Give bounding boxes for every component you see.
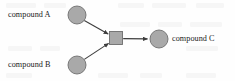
edge-compound-a-to-reaction[interactable] [84, 21, 108, 34]
node-label-compound-a: compound A [8, 11, 51, 19]
node-label-compound-b: compound B [8, 61, 51, 69]
edge-line [84, 21, 108, 34]
edge-line [84, 43, 108, 59]
node-compound-a[interactable] [68, 6, 86, 24]
node-compound-b[interactable] [68, 56, 86, 74]
edge-compound-b-to-reaction[interactable] [84, 43, 108, 59]
node-reaction[interactable] [110, 32, 123, 45]
node-compound-c[interactable] [150, 30, 168, 48]
node-label-compound-c: compound C [172, 35, 215, 43]
diagram-canvas: compound A compound B compound C [0, 0, 235, 81]
